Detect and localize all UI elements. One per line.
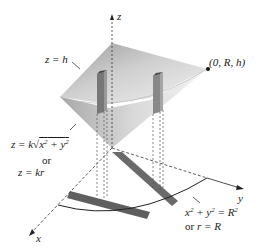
z-axis-arrow bbox=[110, 14, 114, 20]
cone-diagram: z x y z = h (0, R, h) z = k√x2 + y2 or z… bbox=[0, 0, 260, 251]
leader-top-plane bbox=[72, 62, 80, 69]
base-equation: x2 + y2 = R2 bbox=[185, 206, 238, 218]
floor-shadows bbox=[67, 152, 178, 219]
cone-equation: z = k√x2 + y2 bbox=[11, 138, 69, 150]
z-axis-label: z bbox=[117, 10, 121, 22]
top-plane bbox=[60, 43, 207, 104]
column-left bbox=[97, 70, 107, 114]
column-right bbox=[153, 72, 163, 114]
x-axis-arrow bbox=[29, 229, 35, 236]
cone-equation-or: or bbox=[42, 154, 51, 166]
base-equation-alt: or r = R bbox=[185, 220, 221, 232]
y-axis-arrow bbox=[236, 185, 244, 190]
leader-base bbox=[193, 197, 200, 203]
y-axis-label: y bbox=[238, 192, 243, 204]
x-axis-label: x bbox=[36, 232, 41, 244]
top-plane-label: z = h bbox=[45, 53, 68, 65]
cone-equation-alt: z = kr bbox=[18, 166, 44, 178]
point-label: (0, R, h) bbox=[209, 56, 245, 68]
leader-cone bbox=[70, 124, 76, 130]
y-axis bbox=[207, 178, 240, 188]
